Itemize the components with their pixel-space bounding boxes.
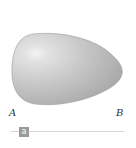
point-label-a: A	[9, 108, 16, 118]
diagram-canvas	[0, 0, 136, 148]
point-label-b: B	[116, 108, 123, 118]
egg-shape	[0, 0, 136, 148]
slider-handle[interactable]: a	[19, 127, 29, 137]
